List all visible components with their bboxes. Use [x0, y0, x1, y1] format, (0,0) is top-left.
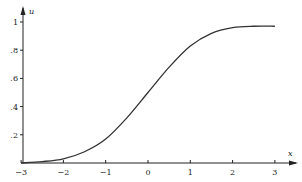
x-axis-label: x	[288, 149, 293, 158]
x-tick-label: 0	[145, 168, 150, 177]
x-tick-label: −2	[58, 168, 70, 177]
x-axis-arrow-icon	[289, 161, 298, 166]
x-tick-label: 3	[272, 168, 277, 177]
x-tick-label: −3	[15, 168, 27, 177]
y-axis-label: u	[29, 7, 34, 16]
sigmoid-chart: x u −3−2−10123 .2.4.6.81	[0, 0, 302, 182]
y-axis-arrow-icon	[21, 6, 26, 15]
y-tick-label: .8	[10, 46, 18, 55]
axes: x u	[21, 6, 299, 166]
x-tick-label: 2	[230, 168, 235, 177]
y-tick-label: 1	[13, 18, 18, 27]
y-ticks: .2.4.6.81	[10, 18, 23, 140]
y-tick-label: .6	[10, 74, 18, 83]
y-tick-label: .4	[10, 103, 18, 112]
data-series-line	[21, 26, 275, 163]
x-tick-label: 1	[188, 168, 193, 177]
x-tick-label: −1	[100, 168, 112, 177]
y-tick-label: .2	[10, 131, 18, 140]
